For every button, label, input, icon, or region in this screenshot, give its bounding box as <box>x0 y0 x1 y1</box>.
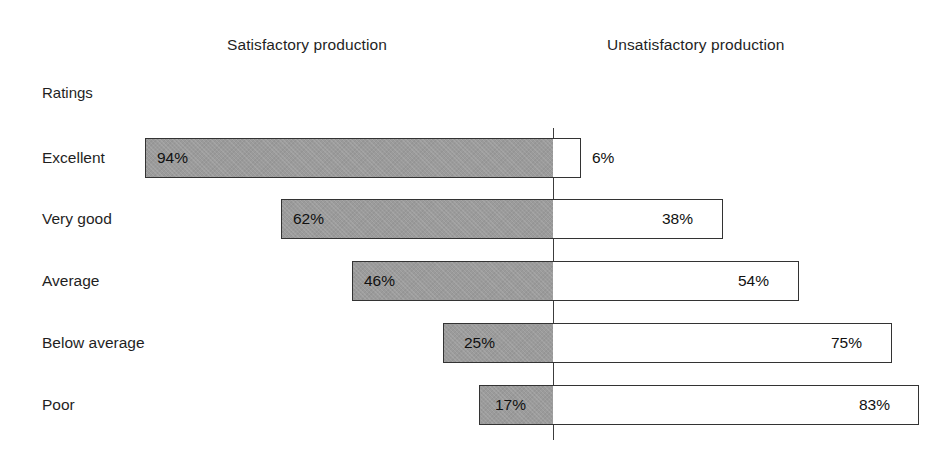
bar-value-unsatisfactory: 6% <box>592 138 614 178</box>
category-label: Below average <box>42 323 145 363</box>
category-label: Poor <box>42 385 75 425</box>
bar-value-satisfactory: 94% <box>157 138 188 178</box>
bar-value-satisfactory: 62% <box>293 199 324 239</box>
bar-segment-unsatisfactory <box>553 138 581 178</box>
category-label: Excellent <box>42 138 105 178</box>
legend-label-unsatisfactory: Unsatisfactory production <box>607 36 784 54</box>
diverging-bar-chart: Satisfactory production Unsatisfactory p… <box>0 0 950 453</box>
category-label: Very good <box>42 199 112 239</box>
bar-segment-satisfactory <box>443 323 554 363</box>
bar-value-satisfactory: 46% <box>364 261 395 301</box>
axis-title-ratings: Ratings <box>42 84 93 101</box>
bar-segment-satisfactory <box>145 138 554 178</box>
bar-value-unsatisfactory: 75% <box>831 323 862 363</box>
category-label: Average <box>42 261 99 301</box>
bar-value-satisfactory: 25% <box>464 323 495 363</box>
bar-segment-unsatisfactory <box>553 199 723 239</box>
legend-label-satisfactory: Satisfactory production <box>227 36 387 54</box>
bar-value-unsatisfactory: 38% <box>662 199 693 239</box>
bar-value-unsatisfactory: 83% <box>859 385 890 425</box>
bar-value-unsatisfactory: 54% <box>738 261 769 301</box>
bar-value-satisfactory: 17% <box>495 385 526 425</box>
